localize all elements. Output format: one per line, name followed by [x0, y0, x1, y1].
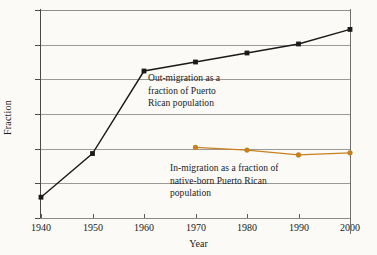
x-tick-label: 1960	[121, 222, 167, 233]
x-tick-label: 1970	[173, 222, 219, 233]
plot-right-frame	[350, 9, 351, 234]
x-tick-label: 1980	[224, 222, 270, 233]
y-axis-line	[40, 9, 41, 219]
x-tick-label: 1940	[18, 222, 64, 233]
gridline	[41, 149, 351, 150]
gridline	[41, 10, 351, 11]
gridline	[41, 45, 351, 46]
x-axis-line	[40, 218, 351, 219]
migration-fraction-line-chart: 00.050.10.150.20.250.3 19401950196019701…	[0, 0, 377, 255]
y-axis-title: Fraction	[2, 83, 13, 153]
x-tick-label: 1990	[276, 222, 322, 233]
x-tick-label: 1950	[70, 222, 116, 233]
annotation-in-migration: In-migration as a fraction of native-bor…	[170, 162, 279, 200]
gridline	[41, 114, 351, 115]
annotation-out-migration: Out-migration as a fraction of Puerto Ri…	[148, 72, 220, 110]
x-axis-title: Year	[0, 238, 377, 249]
